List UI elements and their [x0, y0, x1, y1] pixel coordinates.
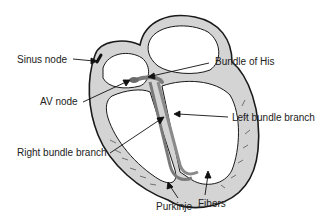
label-right-bundle-branch: Right bundle branch: [17, 147, 107, 158]
label-fibers: Fibers: [198, 198, 226, 209]
label-av-node: AV node: [40, 96, 78, 107]
heart-diagram: [0, 0, 329, 221]
label-sinus-node: Sinus node: [17, 54, 67, 65]
label-bundle-of-his: Bundle of His: [215, 56, 274, 67]
label-left-bundle-branch: Left bundle branch: [232, 112, 315, 123]
label-purkinje: Purkinje: [156, 201, 192, 212]
left-atrium: [148, 26, 219, 74]
